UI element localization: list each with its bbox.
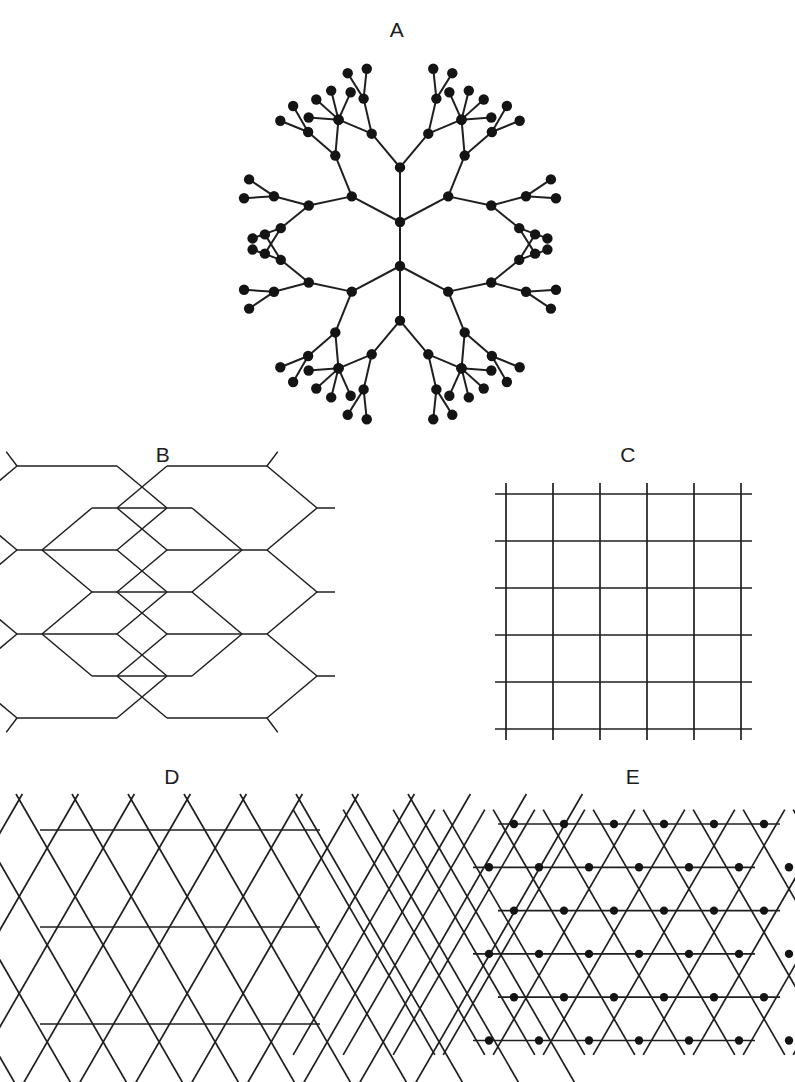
panel-square-lattice [492,480,777,742]
panel-honeycomb-lattice [25,478,315,728]
panel-label-b: B [143,443,183,467]
triangular-lattice-graphic [492,800,792,1072]
panel-cayley-tree [180,52,620,432]
panel-kagome-lattice [28,800,328,1072]
panel-label-e: E [613,765,653,789]
panel-label-c: C [608,443,648,467]
panel-triangular-lattice [492,800,792,1072]
panel-label-a: A [377,18,417,42]
square-lattice-graphic [492,480,777,742]
panel-label-d: D [152,765,192,789]
lattice-figure: A B C D E [0,0,795,1082]
honeycomb-lattice-graphic [25,478,315,728]
cayley-tree-graphic [180,52,620,432]
kagome-lattice-graphic [28,800,328,1072]
